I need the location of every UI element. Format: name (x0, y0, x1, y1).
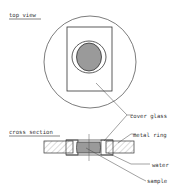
sample-area (77, 43, 102, 71)
top-view: top view (9, 12, 136, 108)
top-view-heading: top view (9, 12, 37, 19)
cover-glass-label: cover glass (130, 113, 167, 120)
sample-cross (77, 142, 101, 153)
ring-left (44, 141, 73, 153)
ring-right (106, 141, 134, 153)
sample-holder-diagram: top view cover glass cross section metal… (0, 0, 184, 195)
cover-glass-leader (96, 83, 133, 115)
metal-ring-label: metal ring (133, 132, 167, 139)
sample-label: sample (147, 178, 168, 185)
water-label: water (152, 162, 169, 168)
cross-section-heading: cross section (9, 129, 53, 135)
